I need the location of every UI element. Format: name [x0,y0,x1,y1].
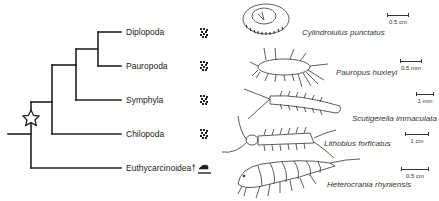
species-label-lithobius: Lithobius forficatus [324,139,391,149]
species-label-heterocrania: Heterocrania rhyniensis [327,180,411,190]
centipede-illustration [222,116,336,158]
scale-bar-scutigerella: 1 mm [405,92,439,105]
scale-label: 0.5 mm [391,64,431,72]
euthycarcinoid-illustration [238,159,360,198]
scale-bar-heterocrania: 0.5 cm [395,167,435,180]
millipede-illustration [243,4,289,35]
scale-bar-lithobius: 1 cm [397,132,437,145]
taxon-label-symphyla: Symphyla [126,95,163,105]
soil-icon [200,28,208,139]
species-label-cylindroiulus: Cylindroiulus punctatus [302,28,385,38]
scale-label: 0.5 cm [395,172,435,180]
scale-bar-cylindroiulus: 0.5 cm [378,13,418,26]
star-icon [23,110,39,126]
taxon-label-pauropoda: Pauropoda [126,61,168,71]
scale-bar-pauropus: 0.5 mm [391,59,431,72]
pauropod-illustration [250,48,328,87]
species-label-scutigerella: Scutigerella immaculata [352,114,437,124]
symphylan-illustration [244,89,341,119]
taxon-label-chilopoda: Chilopoda [126,129,164,139]
shoreline-water-icon [198,165,211,173]
scale-label: 1 mm [405,97,439,105]
scale-label: 0.5 cm [378,18,418,26]
taxon-label-diplopoda: Diplopoda [126,27,164,37]
species-label-pauropus: Pauropus huxleyi [336,68,397,78]
scale-label: 1 cm [397,137,437,145]
taxon-label-euthycarcinoidea: Euthycarcinoidea† [126,163,196,173]
